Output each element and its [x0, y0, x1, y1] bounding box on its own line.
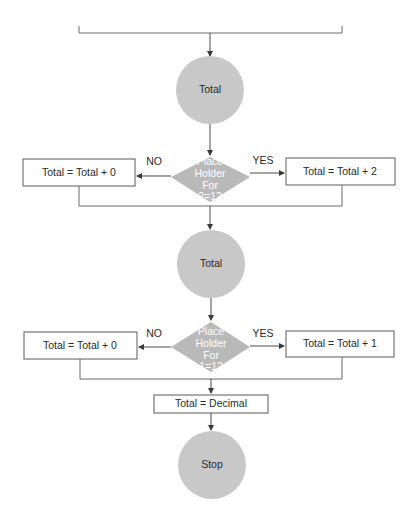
- decision-1-yes-label: YES: [252, 154, 273, 166]
- flowchart-canvas: [0, 0, 415, 512]
- decision-2-label: Place Holder For 1=1?: [186, 326, 236, 373]
- box-no-1-label: Total = Total + 0: [42, 167, 116, 179]
- decision-2-line-4: 1=1?: [186, 361, 236, 373]
- decision-1-no-label: NO: [146, 155, 162, 167]
- decision-1-line-1: Place: [185, 156, 235, 168]
- decision-2-line-1: Place: [186, 326, 236, 338]
- box-decimal-label: Total = Decimal: [175, 398, 247, 410]
- decision-1-label: Place Holder For 2=1?: [185, 156, 235, 203]
- decision-1-line-4: 2=1?: [185, 191, 235, 203]
- total-circle-2-label: Total: [200, 258, 222, 270]
- stop-circle-label: Stop: [201, 459, 223, 471]
- total-circle-1-label: Total: [199, 84, 221, 96]
- box-no-2-label: Total = Total + 0: [43, 340, 117, 352]
- decision-2-no-label: NO: [146, 327, 162, 339]
- box-yes-1-label: Total = Total + 2: [303, 166, 377, 178]
- top-merge-connector: [79, 26, 342, 33]
- box-yes-2-label: Total = Total + 1: [303, 338, 377, 350]
- decision-2-yes-label: YES: [252, 327, 273, 339]
- decision-1-line-2: Holder: [185, 167, 235, 179]
- decision-2-line-2: Holder: [186, 337, 236, 349]
